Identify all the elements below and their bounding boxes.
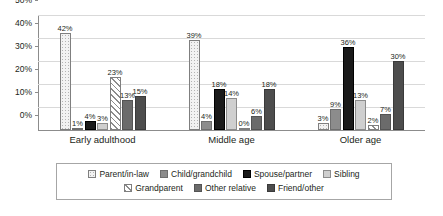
legend-item[interactable]: Parent/in-law <box>88 170 149 179</box>
legend-label: Friend/other <box>278 184 324 193</box>
bar-value-label: 18% <box>261 81 276 89</box>
y-tick-label: 40% <box>15 19 32 28</box>
bar: 6% <box>251 116 262 130</box>
bar-value-label: 4% <box>201 113 212 121</box>
legend-swatch-icon <box>323 170 331 178</box>
bar: 42% <box>60 33 71 130</box>
bar: 7% <box>380 114 391 130</box>
bar: 4% <box>201 121 212 130</box>
legend-label: Spouse/partner <box>254 170 312 179</box>
x-axis-line <box>38 130 425 131</box>
legend-row-primary: Parent/in-lawChild/grandchildSpouse/part… <box>61 167 387 181</box>
category-label: Middle age <box>167 134 296 145</box>
bar-value-label: 15% <box>132 88 147 96</box>
legend-label: Grandparent <box>135 184 183 193</box>
bar-value-label: 42% <box>57 25 72 33</box>
legend-item[interactable]: Grandparent <box>124 184 183 193</box>
bar-value-label: 14% <box>224 90 239 98</box>
y-tick-label: 10% <box>15 88 32 97</box>
legend-item[interactable]: Friend/other <box>267 184 324 193</box>
legend-label: Sibling <box>334 170 360 179</box>
bar-value-label: 0% <box>239 120 250 128</box>
bar-value-label: 36% <box>340 39 355 47</box>
legend-swatch-icon <box>194 184 202 192</box>
bar: 13% <box>122 100 133 130</box>
bar: 0% <box>239 128 250 130</box>
y-axis-ticks: 0%10%20%30%40%50% <box>0 0 36 116</box>
bar-value-label: 3% <box>318 115 329 123</box>
bar: 1% <box>72 128 83 130</box>
category-label: Early adulthood <box>38 134 167 145</box>
bar: 23% <box>110 77 121 130</box>
y-tick-label: 50% <box>15 0 32 4</box>
plot-area: 42%1%4%3%23%13%15%39%4%18%14%0%6%18%3%9%… <box>38 15 425 130</box>
bar: 18% <box>214 89 225 130</box>
bar-value-label: 30% <box>390 53 405 61</box>
legend-item[interactable]: Spouse/partner <box>243 170 312 179</box>
bar-value-label: 1% <box>72 120 83 128</box>
bar-value-label: 9% <box>330 101 341 109</box>
bar-value-label: 13% <box>353 92 368 100</box>
category-label: Older age <box>296 134 425 145</box>
legend-item[interactable]: Child/grandchild <box>160 170 232 179</box>
bar: 30% <box>393 61 404 130</box>
bar: 36% <box>343 47 354 130</box>
legend-swatch-icon <box>243 170 251 178</box>
legend-item[interactable]: Sibling <box>323 170 360 179</box>
bar-group: 3%9%36%13%2%7%30% <box>296 15 425 130</box>
legend-label: Child/grandchild <box>171 170 232 179</box>
bar-chart: 0%10%20%30%40%50% 42%1%4%3%23%13%15%39%4… <box>0 0 443 216</box>
legend-label: Other relative <box>205 184 256 193</box>
bar-value-label: 3% <box>97 115 108 123</box>
legend-swatch-icon <box>88 170 96 178</box>
bar: 2% <box>368 125 379 130</box>
bar-value-label: 6% <box>251 108 262 116</box>
bar: 39% <box>189 40 200 130</box>
bar: 9% <box>330 109 341 130</box>
bar-value-label: 2% <box>368 117 379 125</box>
bar: 15% <box>135 96 146 131</box>
legend-swatch-icon <box>124 184 132 192</box>
legend-label: Parent/in-law <box>99 170 149 179</box>
legend-swatch-icon <box>267 184 275 192</box>
chart-legend: Parent/in-lawChild/grandchildSpouse/part… <box>56 163 392 200</box>
bar: 3% <box>318 123 329 130</box>
bar-value-label: 18% <box>211 81 226 89</box>
bar-value-label: 4% <box>85 113 96 121</box>
y-tick-label: 20% <box>15 65 32 74</box>
bar: 18% <box>264 89 275 130</box>
y-tick-mark <box>35 0 38 1</box>
bar: 3% <box>97 123 108 130</box>
bar: 14% <box>226 98 237 130</box>
bar-value-label: 23% <box>107 69 122 77</box>
legend-swatch-icon <box>160 170 168 178</box>
bar: 4% <box>85 121 96 130</box>
bar-value-label: 7% <box>380 106 391 114</box>
y-tick-label: 30% <box>15 42 32 51</box>
legend-item[interactable]: Other relative <box>194 184 256 193</box>
y-tick-label: 0% <box>20 111 32 120</box>
legend-row-secondary: GrandparentOther relativeFriend/other <box>61 181 387 195</box>
bar-group: 42%1%4%3%23%13%15% <box>38 15 167 130</box>
bar-value-label: 39% <box>186 32 201 40</box>
bar-group: 39%4%18%14%0%6%18% <box>167 15 296 130</box>
bar: 13% <box>355 100 366 130</box>
